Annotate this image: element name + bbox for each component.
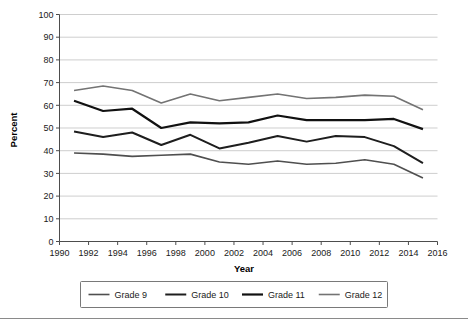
x-tick-label: 2000 [195,248,215,258]
chart-legend: Grade 9Grade 10Grade 11Grade 12 [81,282,388,308]
line-chart: 0102030405060708090100 19901992199419961… [0,0,468,324]
chart-figure: 0102030405060708090100 19901992199419961… [0,0,468,324]
y-tick-label: 20 [43,191,53,201]
y-tick-label: 30 [43,169,53,179]
legend-item-label: Grade 11 [268,290,305,300]
y-tick-label: 90 [43,32,53,42]
x-tick-label: 1996 [137,248,157,258]
x-tick-label: 2006 [282,248,302,258]
x-tick-label: 1994 [108,248,128,258]
axis-lines [56,15,438,246]
y-tick-label: 70 [43,78,53,88]
y-axis-tick-labels: 0102030405060708090100 [38,10,53,247]
x-tick-label: 1992 [79,248,99,258]
x-tick-label: 1990 [49,248,69,258]
y-tick-label: 40 [43,146,53,156]
legend-item-label: Grade 10 [191,290,229,300]
x-tick-label: 2014 [398,248,418,258]
legend-item-label: Grade 12 [345,290,383,300]
legend-item-label: Grade 9 [115,290,148,300]
y-tick-label: 10 [43,214,53,224]
x-tick-label: 2016 [427,248,447,258]
y-axis-title: Percent [8,112,19,148]
x-tick-label: 2012 [369,248,389,258]
y-tick-label: 60 [43,101,53,111]
x-tick-label: 2008 [311,248,331,258]
x-tick-label: 1998 [166,248,186,258]
y-tick-label: 80 [43,55,53,65]
x-tick-label: 2002 [224,248,244,258]
series-line-grade-9 [74,153,423,178]
y-tick-label: 0 [48,237,53,247]
grid-lines [60,15,438,219]
x-tick-label: 2004 [253,248,273,258]
series-line-grade-12 [74,86,423,110]
x-tick-label: 2010 [340,248,360,258]
x-axis-tick-labels: 1990199219941996199820002002200420062008… [49,248,447,258]
data-series [74,86,423,178]
series-line-grade-10 [74,131,423,163]
y-tick-label: 100 [38,10,53,20]
x-axis-title: Year [234,263,254,274]
y-tick-label: 50 [43,123,53,133]
